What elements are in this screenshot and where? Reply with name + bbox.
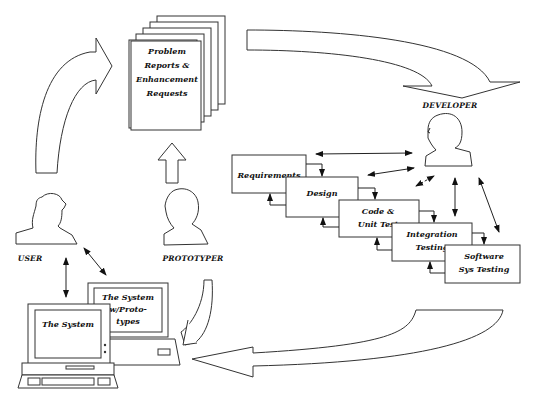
svg-text:The System: The System	[42, 319, 94, 329]
svg-text:The System: The System	[102, 292, 154, 302]
curved-arrow-reports-to-developer	[247, 30, 520, 98]
svg-text:types: types	[116, 316, 140, 326]
svg-text:Testing: Testing	[416, 242, 449, 252]
prototyper-figure	[164, 189, 208, 245]
svg-text:Sys Testing: Sys Testing	[459, 264, 510, 274]
up-arrow-prototyper-to-reports	[158, 143, 186, 183]
user-figure	[16, 193, 77, 244]
curved-arrow-prototyper-to-system	[181, 280, 212, 345]
doc-line-3: Enhancement	[135, 74, 198, 84]
doc-line-4: Requests	[146, 88, 188, 98]
prototyper-label: PROTOTYPER	[161, 254, 223, 263]
svg-text:Design: Design	[306, 188, 338, 198]
svg-text:Software: Software	[464, 251, 504, 261]
doc-line-2: Reports &	[143, 60, 190, 70]
svg-text:w/Proto-: w/Proto-	[109, 304, 147, 314]
svg-text:Integration: Integration	[405, 229, 457, 239]
developer-label: DEVELOPER	[422, 101, 478, 110]
curved-arrow-developer-to-system	[192, 310, 503, 377]
svg-text:Code &: Code &	[362, 206, 395, 216]
curved-arrow-user-to-reports	[36, 38, 112, 173]
phase-software-sys-testing: Software Sys Testing	[445, 245, 520, 283]
user-label: USER	[18, 254, 43, 263]
doc-line-1: Problem	[147, 46, 186, 56]
problem-reports-stack: Problem Reports & Enhancement Requests	[129, 16, 225, 130]
computer-the-system: The System	[18, 304, 118, 388]
diagram-canvas: Problem Reports & Enhancement Requests D…	[0, 0, 533, 397]
developer-figure	[425, 114, 472, 166]
